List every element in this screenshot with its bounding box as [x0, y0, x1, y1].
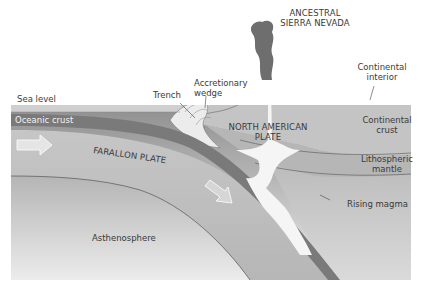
label-asthenosphere: Asthenosphere	[92, 233, 156, 243]
label-lithospheric-mantle: Lithospheric mantle	[352, 154, 422, 174]
volcanic-plume	[251, 21, 273, 80]
cross-section-illustration	[0, 0, 422, 292]
label-ancestral-sierra-nevada: ANCESTRAL SIERRA NEVADA	[260, 8, 370, 28]
label-continental-crust: Continental crust	[352, 115, 422, 135]
label-rising-magma: Rising magma	[347, 199, 408, 209]
label-sea-level: Sea level	[17, 94, 56, 104]
subduction-diagram: ANCESTRAL SIERRA NEVADA Continental inte…	[0, 0, 422, 292]
label-oceanic-crust: Oceanic crust	[15, 115, 73, 125]
label-continental-interior: Continental interior	[342, 62, 422, 82]
label-accretionary-wedge: Accretionary wedge	[194, 78, 248, 98]
label-north-american-plate: NORTH AMERICAN PLATE	[218, 122, 318, 142]
label-trench: Trench	[153, 90, 181, 100]
